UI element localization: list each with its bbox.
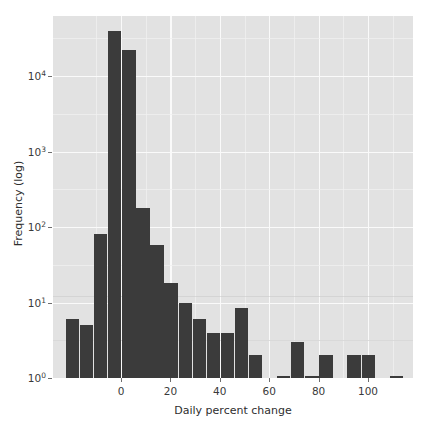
y-axis-tick <box>48 76 52 77</box>
x-axis-tick <box>220 378 221 382</box>
horizontal-gridline-minor <box>53 114 413 115</box>
vertical-gridline <box>368 16 369 378</box>
y-axis-title: Frequency (log) <box>12 124 25 284</box>
x-axis-title: Daily percent change <box>53 404 413 417</box>
histogram-bar <box>277 376 290 378</box>
histogram-bar <box>122 50 135 378</box>
horizontal-gridline <box>53 152 413 153</box>
x-axis-tick-label: 100 <box>358 385 378 397</box>
histogram-bar <box>136 208 149 378</box>
y-axis-tick <box>48 378 52 379</box>
histogram-bar <box>108 31 121 378</box>
vertical-gridline-minor <box>343 16 344 378</box>
y-axis-tick-label: 103 <box>28 146 46 158</box>
horizontal-gridline-minor <box>53 189 413 190</box>
histogram-bar <box>207 333 220 378</box>
horizontal-gridline <box>53 227 413 228</box>
x-axis-tick-label: 80 <box>312 385 325 397</box>
histogram-bar <box>150 245 163 378</box>
x-axis-tick <box>368 378 369 382</box>
histogram-bar <box>80 325 93 378</box>
histogram-bar <box>179 303 192 379</box>
x-axis-tick <box>269 378 270 382</box>
x-axis-tick-label: 60 <box>263 385 276 397</box>
plot-panel <box>53 16 413 378</box>
histogram-bar <box>249 355 262 378</box>
histogram-bar <box>319 355 332 378</box>
y-axis-tick-label: 101 <box>28 297 46 309</box>
y-axis-tick <box>48 227 52 228</box>
vertical-gridline-minor <box>294 16 295 378</box>
histogram-bar <box>305 376 318 378</box>
x-axis-tick-label: 0 <box>118 385 125 397</box>
y-axis-tick-label: 100 <box>28 372 46 384</box>
y-axis-tick <box>48 303 52 304</box>
x-axis-tick-label: 40 <box>213 385 226 397</box>
vertical-gridline <box>269 16 270 378</box>
histogram-bar <box>291 342 304 378</box>
histogram-bar <box>94 234 107 378</box>
horizontal-gridline-minor <box>53 38 413 39</box>
histogram-bar <box>221 333 234 378</box>
vertical-gridline-minor <box>393 16 394 378</box>
x-axis-tick <box>319 378 320 382</box>
y-axis-tick-label: 102 <box>28 221 46 233</box>
horizontal-gridline <box>53 76 413 77</box>
histogram-bar <box>193 319 206 378</box>
histogram-bar <box>362 355 375 378</box>
histogram-bar <box>347 355 360 378</box>
vertical-gridline <box>220 16 221 378</box>
histogram-bar <box>390 376 403 378</box>
y-axis-tick-label: 104 <box>28 70 46 82</box>
histogram-bar <box>164 283 177 378</box>
vertical-gridline <box>319 16 320 378</box>
y-axis-tick <box>48 152 52 153</box>
x-axis-tick-label: 20 <box>164 385 177 397</box>
histogram-bar <box>66 319 79 378</box>
histogram-figure: 020406080100 100101102103104 Daily perce… <box>0 0 428 446</box>
histogram-bar <box>235 308 248 378</box>
x-axis-tick <box>121 378 122 382</box>
x-axis-tick <box>170 378 171 382</box>
